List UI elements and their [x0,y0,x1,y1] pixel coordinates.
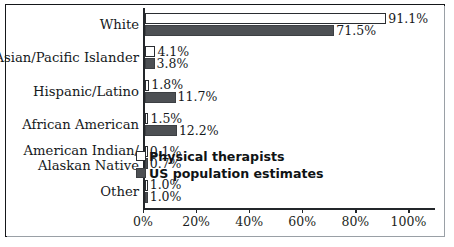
x-axis-line [143,208,435,210]
legend-item: Physical therapists [136,148,324,164]
chart-figure: 0%20%40%60%80%100% White91.1%71.5%Asian/… [0,0,454,247]
category-label: American Indian/ Alaskan Native [0,143,143,173]
bar-light [145,80,150,91]
bar-light [145,46,156,57]
x-axis-tick [355,208,356,213]
chart-category-row: African American1.5%12.2% [143,108,435,141]
x-axis-tick-label: 20% [182,214,210,229]
legend-swatch-dark [136,168,146,178]
bar-dark [145,25,335,36]
bar-value-label: 71.5% [336,25,376,38]
category-label: Other [0,184,143,199]
x-axis-tick [249,208,250,213]
x-axis-tick-label: 60% [288,214,316,229]
category-label: White [0,17,143,32]
bar-dark [145,125,177,136]
bar-dark [145,92,176,103]
bar-light [145,113,149,124]
bar-value-label: 91.1% [388,13,428,26]
x-axis-tick [408,208,409,213]
bar-value-label: 12.2% [179,125,219,138]
x-axis-tick [143,208,144,213]
bar-value-label: 11.7% [178,91,218,104]
category-label: Asian/Pacific Islander [0,50,143,65]
x-axis-tick-label: 80% [341,214,369,229]
legend-label: Physical therapists [149,149,284,164]
chart-legend: Physical therapistsUS population estimat… [136,148,324,182]
x-axis-tick-label: 100% [391,214,427,229]
chart-category-row: White91.1%71.5% [143,8,435,41]
legend-swatch-light [136,151,146,161]
category-label: African American [0,117,143,132]
legend-item: US population estimates [136,165,324,181]
bar-value-label: 1.5% [150,113,182,126]
chart-category-row: Asian/Pacific Islander4.1%3.8% [143,41,435,74]
x-axis-tick-label: 0% [133,214,153,229]
bar-value-label: 1.0% [150,191,182,204]
bar-value-label: 3.8% [157,58,189,71]
x-axis-tick [196,208,197,213]
x-axis-tick [302,208,303,213]
bar-dark [145,58,155,69]
legend-label: US population estimates [149,166,324,181]
chart-category-row: Hispanic/Latino1.8%11.7% [143,75,435,108]
category-label: Hispanic/Latino [0,84,143,99]
x-axis-tick-label: 40% [235,214,263,229]
bar-dark [145,192,148,203]
